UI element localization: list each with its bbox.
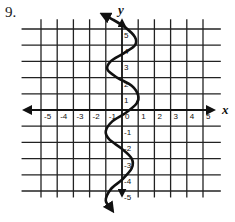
y-axis-label: y	[116, 2, 124, 17]
y-tick-label: 3	[124, 63, 129, 72]
y-tick-label: 1	[124, 96, 129, 105]
x-tick-label: 5	[206, 112, 211, 121]
x-tick-label: -3	[76, 112, 84, 121]
x-tick-label: 2	[157, 112, 162, 121]
x-tick-label: -4	[60, 112, 68, 121]
tick-labels: -5-4-3-2-1012345-5-4-3-2-112345	[44, 31, 211, 202]
y-tick-label: -1	[124, 128, 132, 137]
x-tick-label: -5	[44, 112, 52, 121]
y-tick-label: 5	[124, 31, 129, 40]
y-tick-label: -5	[124, 193, 132, 202]
coordinate-plane: xy -5-4-3-2-1012345-5-4-3-2-112345	[0, 0, 235, 222]
x-tick-label: 3	[174, 112, 179, 121]
x-tick-label: 4	[190, 112, 195, 121]
x-tick-label: 1	[141, 112, 146, 121]
x-axis-label: x	[221, 102, 229, 117]
x-tick-label: -2	[93, 112, 101, 121]
